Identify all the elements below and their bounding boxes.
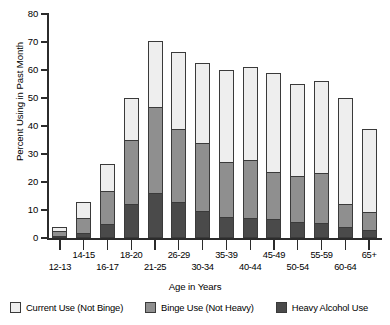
bar-segment-current [196,64,209,143]
bar-16-17 [100,164,115,238]
x-tick-label-55-59: 55-59 [302,250,342,260]
bar-segment-heavy [339,227,352,237]
x-tick-21-25 [154,239,155,250]
bar-segment-binge [339,204,352,227]
bar-segment-current [267,74,280,172]
bar-35-39 [219,70,234,238]
x-tick-26-29 [178,239,179,250]
x-tick-label-45-49: 45-49 [254,250,294,260]
y-tick-50 [41,97,47,99]
y-tick-30 [41,153,47,155]
bar-45-49 [266,73,281,238]
bar-55-59 [314,81,329,238]
x-tick-16-17 [107,239,108,250]
y-tick-80 [41,13,47,15]
x-tick-label-60-64: 60-64 [325,262,365,272]
x-tick-60-64 [345,239,346,250]
bar-segment-heavy [220,217,233,237]
bar-segment-current [363,130,376,212]
bar-segment-current [149,42,162,107]
y-tick-70 [41,41,47,43]
bar-segment-current [77,203,90,219]
x-tick-label-26-29: 26-29 [159,250,199,260]
bar-segment-heavy [77,233,90,237]
x-axis-line [47,238,382,240]
bar-segment-heavy [291,222,304,237]
bar-segment-heavy [149,193,162,237]
bar-26-29 [171,52,186,238]
x-tick-label-21-25: 21-25 [135,262,175,272]
x-tick-label-12-13: 12-13 [40,262,80,272]
x-tick-label-40-44: 40-44 [230,262,270,272]
x-tick-45-49 [273,239,274,250]
bar-segment-binge [267,172,280,219]
legend-swatch-heavy [276,302,287,313]
y-axis-title: Percent Using in Past Month [14,2,25,202]
bar-40-44 [243,67,258,238]
bar-21-25 [148,41,163,238]
bar-segment-binge [291,176,304,222]
bar-segment-current [244,68,257,159]
x-tick-35-39 [226,239,227,250]
bar-segment-binge [244,160,257,218]
bar-segment-current [101,165,114,191]
bar-12-13 [52,227,67,238]
bar-30-34 [195,63,210,238]
bar-segment-binge [363,212,376,230]
x-tick-label-30-34: 30-34 [183,262,223,272]
bar-60-64 [338,98,353,238]
bar-segment-current [220,71,233,162]
bar-segment-binge [315,173,328,223]
x-tick-55-59 [321,239,322,250]
bar-segment-heavy [315,223,328,237]
x-tick-label-14-15: 14-15 [64,250,104,260]
y-tick-60 [41,69,47,71]
x-tick-label-65+: 65+ [349,250,389,260]
bar-segment-binge [172,129,185,202]
bar-segment-heavy [267,219,280,237]
y-tick-10 [41,209,47,211]
bar-50-54 [290,84,305,238]
bar-segment-binge [101,191,114,224]
bar-segment-current [291,85,304,176]
bar-segment-binge [196,143,209,211]
stacked-bar-chart: 01020304050607080 Percent Using in Past … [0,0,390,325]
bar-segment-heavy [363,230,376,237]
bar-segment-heavy [125,204,138,237]
bar-segment-current [315,82,328,173]
bar-segment-binge [125,140,138,203]
bar-segment-binge [77,218,90,233]
legend-label-current: Current Use (Not Binge) [26,302,123,313]
x-tick-12-13 [59,239,60,250]
bar-65+ [362,129,377,238]
bar-segment-heavy [196,211,209,237]
legend-label-heavy: Heavy Alcohol Use [292,302,368,313]
x-tick-65+ [368,239,369,250]
bar-segment-heavy [101,224,114,237]
bar-segment-binge [149,107,162,193]
legend-item-binge[interactable]: Binge Use (Not Heavy) [145,302,254,313]
x-tick-label-50-54: 50-54 [278,262,318,272]
legend-swatch-binge [145,302,156,313]
x-tick-label-35-39: 35-39 [206,250,246,260]
x-tick-18-20 [131,239,132,250]
bar-segment-heavy [244,218,257,237]
x-tick-40-44 [250,239,251,250]
bar-segment-current [172,53,185,129]
legend-label-binge: Binge Use (Not Heavy) [161,302,254,313]
bar-segment-binge [220,162,233,217]
bar-segment-current [125,99,138,140]
y-tick-label-text: 10 [16,205,38,215]
legend-item-current[interactable]: Current Use (Not Binge) [10,302,123,313]
y-tick-label-text: 0 [16,233,38,243]
y-axis-title-host: Percent Using in Past Month [0,0,14,240]
y-tick-40 [41,125,47,127]
plot-area [48,14,381,238]
chart-legend: Current Use (Not Binge)Binge Use (Not He… [10,302,385,313]
x-tick-14-15 [83,239,84,250]
y-tick-0 [41,237,47,239]
bar-segment-current [339,99,352,204]
x-tick-50-54 [297,239,298,250]
x-tick-label-18-20: 18-20 [111,250,151,260]
legend-item-heavy[interactable]: Heavy Alcohol Use [276,302,368,313]
